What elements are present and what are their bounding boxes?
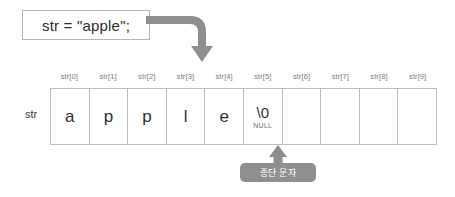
index-label-7: str[7] <box>321 70 360 84</box>
array-row-label: str <box>14 108 48 120</box>
elbow-arrow-icon <box>146 8 236 68</box>
index-label-1: str[1] <box>89 70 128 84</box>
cell-sublabel-5: NULL <box>253 122 272 129</box>
code-statement-text: str = "apple"; <box>42 17 130 34</box>
callout-badge: 종단 문자 <box>240 163 316 182</box>
cell-value-5: \0 <box>257 105 270 120</box>
index-label-5: str[5] <box>244 70 283 84</box>
array-cell-7 <box>321 89 360 144</box>
array-index-labels: str[0] str[1] str[2] str[3] str[4] str[5… <box>50 70 437 84</box>
array-cell-1: p <box>90 89 129 144</box>
index-label-2: str[2] <box>127 70 166 84</box>
index-label-9: str[9] <box>398 70 437 84</box>
index-label-3: str[3] <box>166 70 205 84</box>
array-cell-2: p <box>128 89 167 144</box>
cell-value-2: p <box>142 108 151 125</box>
cell-value-1: p <box>104 108 113 125</box>
array-cell-8 <box>360 89 399 144</box>
index-label-8: str[8] <box>360 70 399 84</box>
array-cell-5: \0 NULL <box>244 89 283 144</box>
array-cell-3: l <box>167 89 206 144</box>
array-cell-4: e <box>205 89 244 144</box>
code-statement-box: str = "apple"; <box>22 10 150 40</box>
array-cell-9 <box>398 89 436 144</box>
index-label-4: str[4] <box>205 70 244 84</box>
array-cells: a p p l e \0 NULL <box>50 88 437 145</box>
index-label-6: str[6] <box>282 70 321 84</box>
null-terminator-callout: 종단 문자 <box>238 145 318 191</box>
cell-value-4: e <box>219 108 228 125</box>
cell-value-3: l <box>184 108 188 125</box>
callout-badge-label: 종단 문자 <box>260 166 296 179</box>
array-cell-0: a <box>51 89 90 144</box>
array-cell-6 <box>283 89 322 144</box>
index-label-0: str[0] <box>50 70 89 84</box>
cell-value-0: a <box>65 108 74 125</box>
